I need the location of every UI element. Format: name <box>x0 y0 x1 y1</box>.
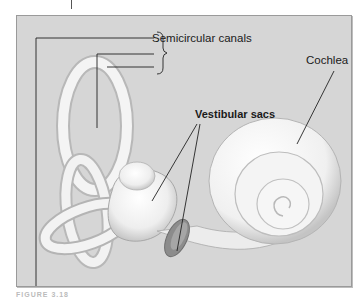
figure-caption: FIGURE 3.18 <box>16 291 69 298</box>
cochlea <box>209 118 341 244</box>
label-cochlea: Cochlea <box>306 55 348 67</box>
label-vestibular-sacs: Vestibular sacs <box>195 109 275 120</box>
inner-ear-illustration: Semicircular canals Cochlea Vestibular s… <box>16 15 352 287</box>
inner-ear-drawing <box>17 16 351 286</box>
top-tick-mark <box>71 0 72 9</box>
label-semicircular-canals: Semicircular canals <box>152 33 252 45</box>
